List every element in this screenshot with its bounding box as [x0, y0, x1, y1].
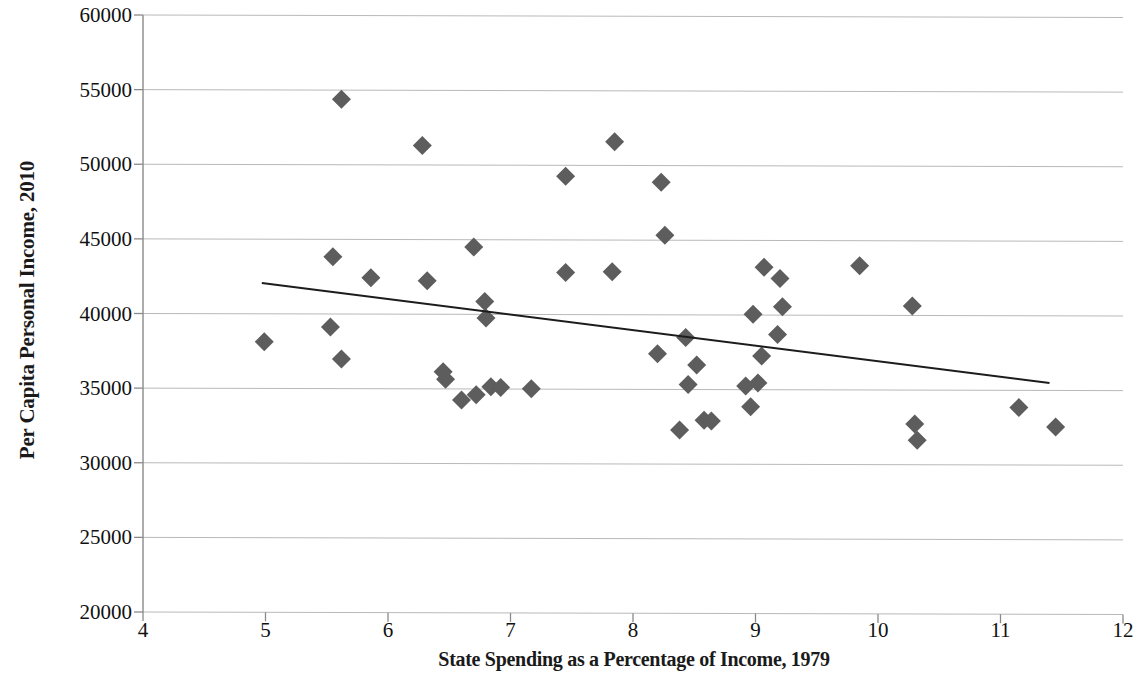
- data-point: [771, 269, 790, 288]
- data-point: [908, 431, 927, 450]
- data-point: [1009, 398, 1028, 417]
- plot-area: [0, 0, 1135, 683]
- data-point: [413, 136, 432, 155]
- data-point: [679, 375, 698, 394]
- data-point: [556, 167, 575, 186]
- x-tick-label: 4: [113, 620, 173, 641]
- x-tick-label: 8: [603, 620, 663, 641]
- data-point: [1046, 417, 1065, 436]
- data-point-markers: [255, 90, 1065, 450]
- data-point: [321, 317, 340, 336]
- data-point: [464, 238, 483, 257]
- x-tick-label: 5: [236, 620, 296, 641]
- data-point: [332, 350, 351, 369]
- data-point: [744, 305, 763, 324]
- data-point: [670, 420, 689, 439]
- data-point: [648, 344, 667, 363]
- data-point: [418, 271, 437, 290]
- data-point: [522, 379, 541, 398]
- x-tick-label: 7: [481, 620, 541, 641]
- x-tick-label: 10: [848, 620, 908, 641]
- data-point: [752, 347, 771, 366]
- data-point: [603, 262, 622, 281]
- data-point: [850, 256, 869, 275]
- x-tick-label: 11: [971, 620, 1031, 641]
- gridlines: [143, 15, 1123, 615]
- data-point: [687, 355, 706, 374]
- gridline: [143, 239, 1123, 242]
- data-point: [361, 268, 380, 287]
- x-tick-label: 12: [1093, 620, 1135, 641]
- data-point: [332, 90, 351, 109]
- trend-line: [262, 283, 1050, 383]
- gridline: [143, 90, 1123, 93]
- gridline: [143, 314, 1123, 317]
- data-point: [773, 297, 792, 316]
- data-point: [755, 258, 774, 277]
- gridline: [143, 388, 1123, 391]
- data-point: [605, 132, 624, 151]
- data-point: [556, 263, 575, 282]
- x-axis-title: State Spending as a Percentage of Income…: [143, 648, 1125, 671]
- x-tick-label: 9: [726, 620, 786, 641]
- gridline: [143, 164, 1123, 167]
- data-point: [905, 414, 924, 433]
- data-point: [903, 297, 922, 316]
- y-tickmarks: [134, 15, 143, 612]
- data-point: [323, 247, 342, 266]
- data-point: [655, 226, 674, 245]
- gridline: [143, 15, 1123, 18]
- scatter-chart: Per Capita Personal Income, 2010 2000025…: [0, 0, 1135, 683]
- data-point: [475, 292, 494, 311]
- data-point: [741, 397, 760, 416]
- data-point: [255, 332, 274, 351]
- gridline: [143, 537, 1123, 540]
- data-point: [652, 173, 671, 192]
- x-tick-label: 6: [358, 620, 418, 641]
- gridline: [143, 463, 1123, 466]
- data-point: [768, 325, 787, 344]
